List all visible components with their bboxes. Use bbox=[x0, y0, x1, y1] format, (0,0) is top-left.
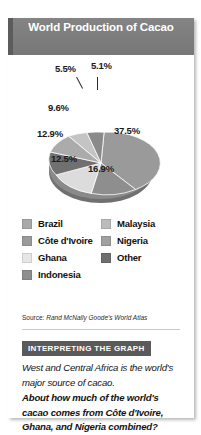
legend-item-malaysia[interactable]: Malaysia bbox=[101, 215, 180, 232]
pie-label-malaysia: 5.5% bbox=[55, 63, 76, 74]
legend-swatch-other bbox=[101, 253, 111, 263]
legend-swatch-ghana bbox=[22, 253, 32, 263]
legend-swatch-malaysia bbox=[101, 219, 111, 229]
pie-label-nigeria: 16.9% bbox=[88, 163, 114, 174]
callout-line-other bbox=[97, 77, 98, 90]
legend-label-cote-divoire: Côte d'Ivoire bbox=[38, 235, 93, 246]
pie-label-other: 5.1% bbox=[91, 60, 112, 71]
legend-column-left: Brazil Côte d'Ivoire Ghana Indonesia bbox=[22, 215, 101, 283]
source-label: Source: bbox=[22, 314, 44, 321]
chart-title: World Production of Cacao bbox=[18, 21, 184, 35]
chart-title-bar: World Production of Cacao bbox=[8, 18, 194, 55]
pie-label-indonesia: 12.9% bbox=[37, 128, 63, 139]
source-text: Rand McNally Goode's World Atlas bbox=[46, 314, 147, 321]
legend-swatch-brazil bbox=[22, 219, 32, 229]
pie-chart: 5.5% 5.1% 9.6% 12.9% 12.5% 16.9% 37.5% bbox=[8, 55, 194, 220]
legend-item-ghana[interactable]: Ghana bbox=[22, 249, 101, 266]
legend-label-other: Other bbox=[117, 252, 141, 263]
legend-item-cote-divoire[interactable]: Côte d'Ivoire bbox=[22, 232, 101, 249]
legend-swatch-nigeria bbox=[101, 236, 111, 246]
legend-item-nigeria[interactable]: Nigeria bbox=[101, 232, 180, 249]
interpreting-statement: West and Central Africa is the world's m… bbox=[22, 362, 173, 388]
chart-body: 5.5% 5.1% 9.6% 12.9% 12.5% 16.9% 37.5% B… bbox=[8, 55, 194, 418]
legend-swatch-indonesia bbox=[22, 270, 32, 280]
legend-item-other[interactable]: Other bbox=[101, 249, 180, 266]
legend-column-right: Malaysia Nigeria Other bbox=[101, 215, 180, 283]
interpreting-the-graph-banner: INTERPRETING THE GRAPH bbox=[22, 341, 151, 356]
pie-label-brazil: 9.6% bbox=[48, 102, 69, 113]
legend-item-indonesia[interactable]: Indonesia bbox=[22, 266, 101, 283]
legend-item-brazil[interactable]: Brazil bbox=[22, 215, 101, 232]
legend: Brazil Côte d'Ivoire Ghana Indonesia bbox=[8, 215, 194, 283]
legend-label-nigeria: Nigeria bbox=[117, 235, 148, 246]
interpreting-question: About how much of the world's cacao come… bbox=[22, 391, 184, 435]
interpreting-the-graph-body: West and Central Africa is the world's m… bbox=[22, 361, 184, 435]
pie-label-ghana: 12.5% bbox=[51, 153, 77, 164]
source-citation: Source: Rand McNally Goode's World Atlas bbox=[22, 314, 147, 321]
figure-card: World Production of Cacao bbox=[8, 18, 194, 418]
legend-label-indonesia: Indonesia bbox=[38, 269, 81, 280]
legend-swatch-cote-divoire bbox=[22, 236, 32, 246]
pie-chart-svg bbox=[8, 55, 194, 220]
legend-label-malaysia: Malaysia bbox=[117, 218, 155, 229]
legend-label-brazil: Brazil bbox=[38, 218, 63, 229]
pie-label-cote-divoire: 37.5% bbox=[114, 125, 140, 136]
section-divider bbox=[22, 329, 180, 330]
legend-label-ghana: Ghana bbox=[38, 252, 67, 263]
